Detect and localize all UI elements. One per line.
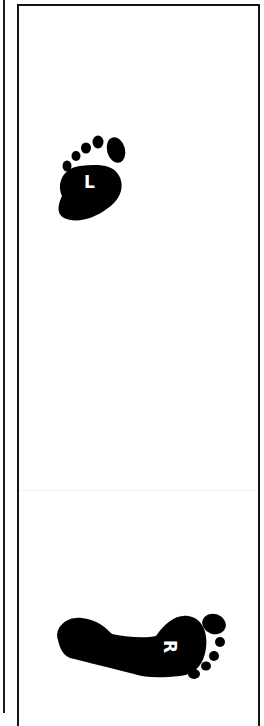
right-footprint-icon xyxy=(50,608,226,690)
right-footprint: R xyxy=(50,608,226,690)
right-foot-label: R xyxy=(161,640,178,653)
left-footprint: L xyxy=(50,134,132,226)
left-foot-label: L xyxy=(84,174,95,191)
panel-seam xyxy=(19,490,257,491)
adjacent-panel-edge xyxy=(3,0,5,713)
